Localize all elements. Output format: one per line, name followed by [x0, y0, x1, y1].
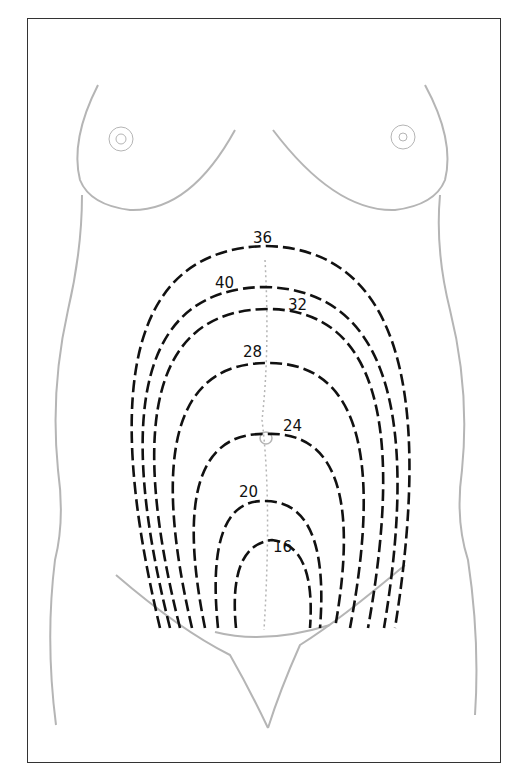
contour-32	[154, 309, 383, 628]
label-36: 36	[253, 229, 272, 247]
label-40: 40	[215, 274, 234, 292]
contour-36	[132, 246, 410, 628]
label-28: 28	[243, 343, 262, 361]
contour-28	[173, 363, 364, 628]
label-20: 20	[239, 483, 258, 501]
week-labels: 36 40 32 28 24 20 16	[215, 229, 307, 556]
body-outline	[50, 85, 476, 728]
contour-lines	[132, 246, 410, 628]
label-32: 32	[288, 296, 307, 314]
contour-20	[216, 501, 322, 628]
label-16: 16	[273, 538, 292, 556]
label-24: 24	[283, 417, 302, 435]
anatomy-illustration: 36 40 32 28 24 20 16	[0, 0, 523, 778]
